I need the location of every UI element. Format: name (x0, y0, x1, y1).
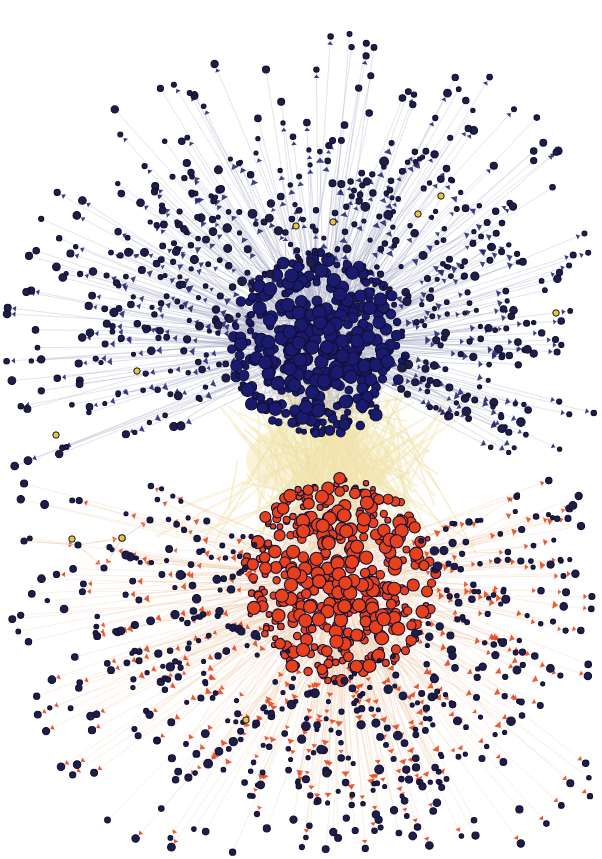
graph-node (241, 383, 254, 396)
graph-node (70, 772, 76, 778)
graph-node (284, 489, 297, 502)
graph-node (76, 685, 82, 691)
graph-node (184, 336, 191, 343)
graph-node (405, 89, 411, 95)
graph-node (485, 324, 492, 331)
graph-node (282, 731, 288, 737)
graph-node (524, 432, 529, 437)
graph-node (416, 605, 429, 618)
graph-node (201, 730, 209, 738)
graph-node (381, 355, 394, 368)
graph-node (403, 546, 410, 553)
graph-node (142, 164, 147, 169)
graph-node (561, 573, 566, 578)
graph-node (329, 728, 333, 732)
graph-node (522, 402, 526, 406)
graph-node (38, 388, 44, 394)
graph-node (538, 588, 544, 594)
graph-node (386, 599, 396, 609)
graph-node (260, 770, 265, 775)
graph-node (247, 559, 258, 570)
graph-node (147, 517, 153, 523)
graph-node (238, 370, 249, 381)
graph-node (76, 498, 82, 504)
graph-node (203, 236, 210, 243)
graph-node (410, 547, 423, 560)
graph-node (243, 565, 248, 570)
graph-node (179, 499, 183, 503)
graph-node (261, 743, 265, 747)
graph-node (413, 755, 419, 761)
graph-node (470, 353, 477, 360)
graph-node (537, 703, 543, 709)
graph-node (311, 644, 318, 651)
graph-node (543, 288, 548, 293)
graph-node (420, 377, 425, 382)
graph-node (591, 410, 596, 415)
graph-node (242, 780, 248, 786)
graph-node (166, 517, 170, 521)
graph-node (171, 259, 176, 264)
graph-node (118, 132, 123, 137)
graph-node (365, 374, 377, 386)
graph-node (255, 115, 262, 122)
graph-node (460, 264, 464, 268)
graph-node (262, 631, 269, 638)
graph-node (357, 721, 365, 729)
graph-node (284, 578, 297, 591)
graph-node (410, 703, 414, 707)
graph-node (451, 563, 457, 569)
graph-node (302, 722, 311, 731)
graph-node (76, 381, 83, 388)
graph-node (21, 480, 28, 487)
graph-node (296, 208, 302, 214)
graph-node (339, 419, 350, 430)
graph-node (363, 659, 376, 672)
graph-node (310, 552, 323, 565)
graph-node (199, 366, 206, 373)
graph-node (517, 638, 521, 642)
graph-node (209, 555, 213, 559)
graph-node (203, 385, 207, 389)
graph-node (433, 799, 440, 806)
graph-node (287, 545, 300, 558)
graph-node (419, 691, 425, 697)
graph-node (176, 571, 185, 580)
graph-node (249, 769, 253, 773)
graph-node (93, 356, 98, 361)
graph-node (296, 428, 301, 433)
graph-node (282, 409, 290, 417)
graph-node (182, 175, 187, 180)
graph-node (441, 238, 446, 243)
graph-node (314, 722, 320, 728)
graph-node (357, 192, 362, 197)
graph-node (488, 445, 492, 449)
graph-node (263, 314, 275, 326)
graph-node (435, 689, 440, 694)
graph-node (362, 219, 366, 223)
graph-node (346, 266, 359, 279)
graph-node (172, 776, 178, 782)
graph-node (513, 650, 518, 655)
graph-node (223, 361, 229, 367)
graph-node (455, 412, 459, 416)
graph-node (427, 294, 434, 301)
graph-node (428, 405, 433, 410)
graph-node (163, 139, 167, 143)
graph-node (286, 767, 292, 773)
graph-node (314, 800, 318, 804)
graph-node (587, 775, 591, 779)
graph-node (520, 662, 525, 667)
graph-node (472, 230, 476, 234)
graph-node (41, 501, 49, 509)
graph-node (129, 250, 133, 254)
graph-node (495, 558, 500, 563)
graph-node (505, 549, 510, 554)
yellow-accent-node (415, 211, 421, 217)
graph-node (236, 313, 240, 317)
graph-node (87, 410, 91, 414)
graph-node (388, 582, 401, 595)
graph-node (315, 355, 328, 368)
graph-node (136, 597, 142, 603)
graph-node (212, 306, 219, 313)
